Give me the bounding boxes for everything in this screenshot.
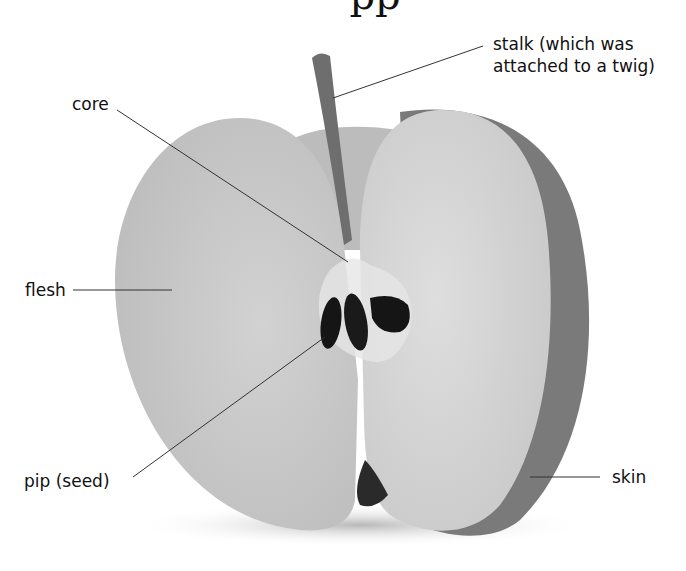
label-skin: skin: [612, 466, 646, 488]
label-stalk: stalk (which was attached to a twig): [493, 33, 655, 77]
label-flesh: flesh: [25, 279, 66, 301]
label-pip: pip (seed): [24, 470, 110, 492]
label-stalk-line1: stalk (which was: [493, 33, 655, 55]
label-stalk-line2: attached to a twig): [493, 55, 655, 77]
apple-diagram: pp: [0, 0, 686, 571]
label-core: core: [72, 93, 109, 115]
stalk-leader: [333, 46, 483, 98]
